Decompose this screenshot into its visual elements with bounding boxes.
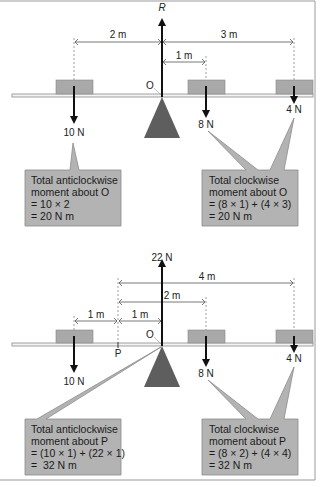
callout-line: Total clockwise bbox=[209, 174, 291, 186]
callout-line: = (8 × 1) + (4 × 3) bbox=[209, 198, 291, 210]
figure-frame bbox=[0, 1, 315, 480]
callout-line: = 20 N m bbox=[31, 210, 118, 222]
callout-line: moment about P bbox=[31, 435, 125, 447]
dimension-label-1m: 1 m bbox=[176, 50, 193, 61]
callout-line: moment about O bbox=[209, 186, 291, 198]
dimension-lines bbox=[75, 280, 293, 324]
callout-text-clockwise-o: Total clockwise moment about O = (8 × 1)… bbox=[209, 174, 291, 222]
force-label-10n: 10 N bbox=[63, 376, 84, 387]
pivot-triangle bbox=[144, 346, 180, 387]
dimension-label-1m-right: 1 m bbox=[132, 309, 149, 320]
force-label-8n: 8 N bbox=[198, 368, 214, 379]
force-label-4n: 4 N bbox=[286, 353, 302, 364]
callout-text-anticlockwise-o: Total anticlockwise moment about O = 10 … bbox=[31, 174, 118, 222]
pivot-triangle bbox=[144, 97, 180, 138]
pivot-label-o: O bbox=[146, 329, 154, 340]
dimension-label-3m: 3 m bbox=[221, 29, 238, 40]
callout-text-clockwise-p: Total clockwise moment about P = (8 × 2)… bbox=[209, 423, 291, 471]
callout-line: Total anticlockwise bbox=[31, 423, 125, 435]
callout-line: = 10 × 2 bbox=[31, 198, 118, 210]
callout-line: moment about P bbox=[209, 435, 291, 447]
force-label-4n: 4 N bbox=[286, 104, 302, 115]
dimension-label-2m: 2 m bbox=[164, 290, 181, 301]
callout-line: Total clockwise bbox=[209, 423, 291, 435]
callout-line: Total anticlockwise bbox=[31, 174, 118, 186]
dimension-label-2m: 2 m bbox=[110, 29, 127, 40]
dimension-label-1m-left: 1 m bbox=[88, 309, 105, 320]
point-label-p: P bbox=[115, 348, 122, 359]
callout-line: = 32 N m bbox=[31, 459, 125, 471]
callout-line: = (8 × 2) + (4 × 4) bbox=[209, 447, 291, 459]
callout-line: = 20 N m bbox=[209, 210, 291, 222]
callout-line: = (10 × 1) + (22 × 1) bbox=[31, 447, 125, 459]
callout-line: = 32 N m bbox=[209, 459, 291, 471]
reaction-label-r: R bbox=[158, 2, 165, 13]
callout-line: moment about O bbox=[31, 186, 118, 198]
force-label-10n: 10 N bbox=[63, 127, 84, 138]
pivot-label-o: O bbox=[146, 80, 154, 91]
reaction-label-22n: 22 N bbox=[151, 252, 172, 263]
callout-text-anticlockwise-p: Total anticlockwise moment about P = (10… bbox=[31, 423, 125, 471]
moments-diagram-figure: 2 m 3 m 1 m O R 10 N 8 N 4 N bbox=[0, 0, 322, 487]
dimension-label-4m: 4 m bbox=[199, 271, 216, 282]
force-label-8n: 8 N bbox=[198, 119, 214, 130]
